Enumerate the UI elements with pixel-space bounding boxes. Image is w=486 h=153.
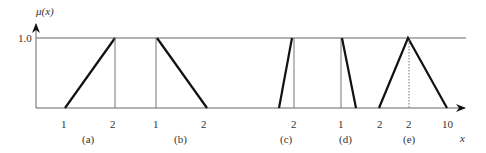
panel-e-tick-3: 10 xyxy=(442,118,454,130)
panel-c-caption: (c) xyxy=(280,133,293,146)
panel-b-tick-1: 1 xyxy=(153,118,159,130)
panel-e-tick-1: 2 xyxy=(377,118,383,130)
panel-a-caption: (a) xyxy=(82,133,95,146)
membership-functions-diagram: μ(x) 1.0 x 1 2 (a) 1 2 (b) 2 (c) 1 (d) 2… xyxy=(0,0,486,153)
panel-e-triangle xyxy=(379,38,447,108)
panel-d-ramp xyxy=(342,38,356,108)
panel-a-tick-1: 1 xyxy=(61,118,67,130)
y-axis-label: μ(x) xyxy=(35,5,54,18)
panel-c-ramp xyxy=(279,38,292,108)
panel-b-tick-2: 2 xyxy=(201,118,207,130)
panel-b-caption: (b) xyxy=(174,133,187,146)
panel-c-tick-1: 2 xyxy=(291,118,297,130)
y-tick-1: 1.0 xyxy=(18,32,32,44)
panel-e-caption: (e) xyxy=(403,133,416,146)
panel-b-ramp xyxy=(157,38,207,108)
panel-e-tick-2: 2 xyxy=(406,118,412,130)
panel-d-caption: (d) xyxy=(339,133,352,146)
panel-a-tick-2: 2 xyxy=(110,118,116,130)
panel-a-ramp xyxy=(65,38,115,108)
x-axis-label: x xyxy=(459,132,465,144)
panel-d-tick-1: 1 xyxy=(338,118,344,130)
